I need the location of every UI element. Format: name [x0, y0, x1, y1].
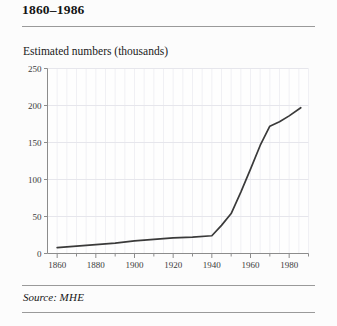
y-axis-tick-label: 150 [28, 138, 42, 148]
source-label: Source: [23, 291, 57, 303]
y-axis-tick-label: 0 [37, 249, 42, 259]
x-axis-tick-label: 1960 [242, 260, 261, 270]
x-axis-tick-label: 1860 [48, 260, 67, 270]
chart-plot-area: 0501001502002501860188019001920194019601… [0, 0, 337, 326]
x-axis-tick-label: 1900 [126, 260, 145, 270]
source-value: MHE [60, 291, 85, 303]
y-axis-tick-label: 250 [28, 64, 42, 74]
divider-source-top [22, 285, 315, 286]
source-note: Source: MHE [23, 291, 84, 303]
x-axis-tick-label: 1920 [164, 260, 183, 270]
figure-container: 1860–1986 Estimated numbers (thousands) … [0, 0, 337, 326]
line-chart: 0501001502002501860188019001920194019601… [0, 0, 337, 326]
x-axis-tick-label: 1940 [203, 260, 222, 270]
y-axis-tick-label: 50 [33, 212, 43, 222]
x-axis-tick-label: 1880 [87, 260, 106, 270]
y-axis-tick-label: 200 [28, 101, 42, 111]
x-axis-tick-label: 1980 [280, 260, 299, 270]
y-axis-tick-label: 100 [28, 175, 42, 185]
divider-source-bottom [22, 312, 315, 313]
